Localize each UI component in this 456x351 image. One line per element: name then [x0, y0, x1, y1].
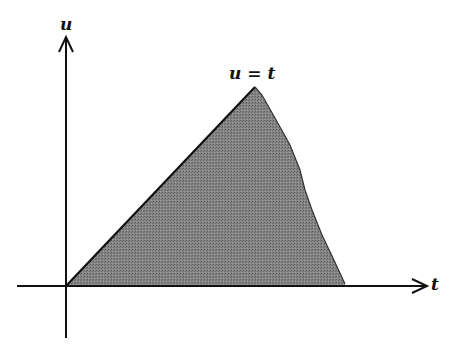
line-label: u = t [229, 65, 275, 82]
shaded-region [66, 87, 345, 286]
diagram-canvas [0, 0, 456, 351]
t-axis-label: t [431, 276, 439, 293]
u-axis-label: u [60, 16, 72, 33]
